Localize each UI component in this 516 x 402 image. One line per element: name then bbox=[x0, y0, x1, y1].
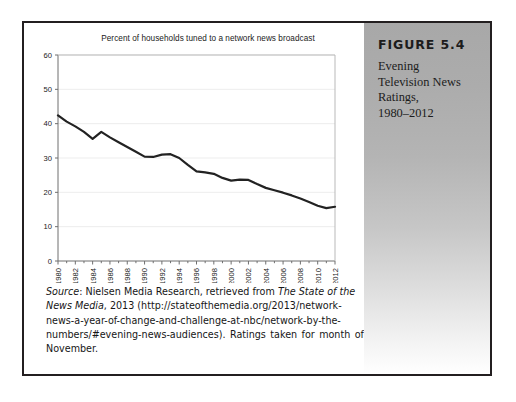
svg-text:2002: 2002 bbox=[244, 268, 253, 283]
svg-text:2012: 2012 bbox=[331, 268, 340, 283]
figure-caption-line-1: Evening bbox=[378, 59, 478, 75]
svg-text:2000: 2000 bbox=[227, 268, 236, 283]
svg-text:2008: 2008 bbox=[296, 268, 305, 283]
chart-container: Percent of households tuned to a network… bbox=[24, 23, 368, 374]
figure-caption-line-3: Ratings, bbox=[378, 90, 478, 106]
source-line-3: news-a-year-of-change-and-challenge-at-n… bbox=[46, 314, 364, 328]
figure-caption-line-4: 1980–2012 bbox=[378, 106, 478, 122]
source-label: Source bbox=[46, 286, 79, 297]
svg-text:40: 40 bbox=[44, 119, 52, 128]
svg-text:0: 0 bbox=[48, 257, 52, 266]
figure-frame: Percent of households tuned to a network… bbox=[22, 21, 492, 376]
source-line-1: Source: Nielsen Media Research, retrieve… bbox=[46, 285, 364, 299]
svg-text:1998: 1998 bbox=[210, 268, 219, 283]
svg-text:1984: 1984 bbox=[89, 268, 98, 283]
svg-text:1982: 1982 bbox=[71, 268, 80, 283]
source-line-2-text: , 2013 (http://stateofthemedia.org/2013/… bbox=[104, 300, 342, 311]
grid-lines bbox=[58, 55, 335, 227]
svg-text:1986: 1986 bbox=[106, 268, 115, 283]
svg-text:60: 60 bbox=[44, 51, 52, 60]
source-line-2: News Media, 2013 (http://stateofthemedia… bbox=[46, 299, 364, 313]
svg-text:1990: 1990 bbox=[140, 268, 149, 283]
svg-text:1992: 1992 bbox=[158, 268, 167, 283]
source-line-4-f: of bbox=[355, 328, 364, 342]
svg-text:50: 50 bbox=[44, 85, 52, 94]
source-publication-part2: News Media bbox=[46, 300, 104, 311]
svg-text:2004: 2004 bbox=[262, 268, 271, 283]
svg-text:1994: 1994 bbox=[175, 268, 184, 283]
source-note: Source: Nielsen Media Research, retrieve… bbox=[46, 285, 364, 356]
svg-text:2006: 2006 bbox=[279, 268, 288, 283]
source-line-4-a: numbers/#evening-news-audiences). bbox=[46, 328, 226, 342]
svg-text:2010: 2010 bbox=[314, 268, 323, 283]
svg-text:10: 10 bbox=[44, 222, 52, 231]
figure-number: FIGURE 5.4 bbox=[378, 37, 478, 52]
source-publication-part1: The State of the bbox=[278, 286, 355, 297]
x-axis-ticks bbox=[58, 261, 335, 265]
source-line-5: November. bbox=[46, 342, 364, 356]
svg-text:20: 20 bbox=[44, 188, 52, 197]
source-line-4-e: month bbox=[319, 328, 350, 342]
source-line-4: numbers/#evening-news-audiences). Rating… bbox=[46, 328, 364, 342]
svg-text:1980: 1980 bbox=[54, 268, 63, 283]
data-series-line bbox=[58, 115, 335, 208]
x-axis-labels: 1980198219841986198819901992199419961998… bbox=[54, 268, 340, 283]
plot-area: 0102030405060 19801982198419861988199019… bbox=[24, 23, 368, 283]
figure-caption-line-2: Television News bbox=[378, 75, 478, 91]
source-line-4-c: taken bbox=[270, 328, 297, 342]
source-line-4-d: for bbox=[302, 328, 315, 342]
figure-caption: Evening Television News Ratings, 1980–20… bbox=[378, 59, 478, 121]
svg-text:30: 30 bbox=[44, 154, 52, 163]
y-axis-labels: 0102030405060 bbox=[44, 51, 52, 266]
line-chart-svg: 0102030405060 19801982198419861988199019… bbox=[24, 23, 368, 283]
source-line-4-b: Ratings bbox=[230, 328, 266, 342]
svg-text:1988: 1988 bbox=[123, 268, 132, 283]
figure-sidebar: FIGURE 5.4 Evening Television News Ratin… bbox=[364, 23, 490, 374]
svg-text:1996: 1996 bbox=[192, 268, 201, 283]
source-line-1-text: : Nielsen Media Research, retrieved from bbox=[79, 286, 278, 297]
